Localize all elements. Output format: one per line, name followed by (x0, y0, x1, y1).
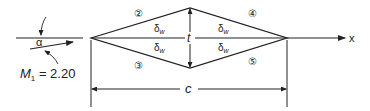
region-4-label: ④ (248, 8, 257, 19)
chord-label: c (185, 81, 192, 96)
diamond-airfoil-diagram: α M1 = 2.20 ② ③ ④ ⑤ δw δw δw δw t c x (0, 0, 370, 111)
mach-pointer-arrow (45, 51, 58, 64)
angle-label: α (36, 36, 43, 48)
angle-pointer-arrow (41, 17, 46, 35)
wedge-angle-upper-right: δw (218, 23, 230, 35)
region-5-label: ⑤ (248, 56, 257, 67)
region-3-label: ③ (134, 60, 143, 71)
x-axis-label: x (349, 32, 355, 44)
mach-label: M1 = 2.20 (20, 66, 75, 83)
wedge-angle-upper-left: δw (154, 23, 166, 35)
wedge-angle-lower-right: δw (218, 42, 230, 54)
region-2-label: ② (134, 8, 143, 19)
wedge-angle-lower-left: δw (154, 42, 166, 54)
